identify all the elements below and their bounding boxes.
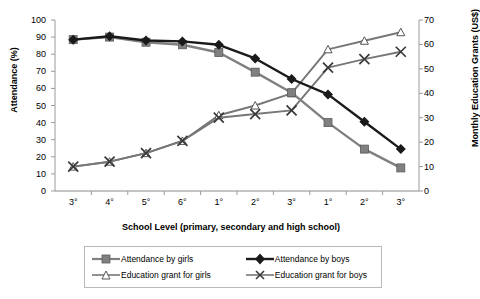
- legend-key-attendance-boys-icon: [245, 252, 275, 266]
- legend-row: Education grant for girls Education gran…: [91, 267, 379, 283]
- series-attendance-by-girls: [69, 33, 405, 172]
- series-attendance-by-boys: [68, 31, 406, 154]
- legend-label-grant-girls: Education grant for girls: [121, 270, 211, 280]
- legend-key-grant-girls-icon: [91, 268, 121, 282]
- legend-item-grant-girls: Education grant for girls: [91, 267, 245, 283]
- series-education-grant-for-boys: [68, 47, 406, 172]
- legend-item-attendance-boys: Attendance by boys: [245, 251, 379, 267]
- axis-tick-marks: [51, 20, 423, 195]
- legend-key-grant-boys-icon: [245, 268, 275, 282]
- legend-item-attendance-girls: Attendance by girls: [91, 251, 245, 267]
- legend-label-attendance-girls: Attendance by girls: [121, 254, 193, 264]
- legend-label-grant-boys: Education grant for boys: [275, 270, 367, 280]
- legend-row: Attendance by girls Attendance by boys: [91, 251, 379, 267]
- legend-item-grant-boys: Education grant for boys: [245, 267, 379, 283]
- chart-legend: Attendance by girls Attendance by boys E…: [84, 246, 382, 288]
- series-education-grant-for-girls: [69, 28, 405, 170]
- legend-key-attendance-girls-icon: [91, 252, 121, 266]
- legend-label-attendance-boys: Attendance by boys: [275, 254, 350, 264]
